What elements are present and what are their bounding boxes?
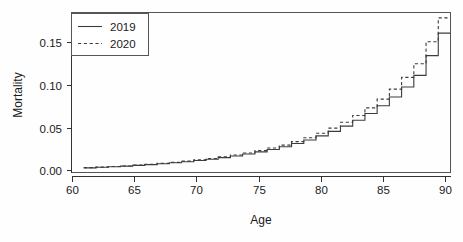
x-axis-title: Age: [250, 213, 272, 227]
x-axis-group: 60 65 70 75 80 85 90 Age: [66, 177, 452, 228]
x-tick-label-5: 85: [377, 184, 390, 196]
x-tick-label-4: 80: [315, 184, 328, 196]
legend-label-2020: 2020: [110, 38, 136, 50]
x-tick-marks: [73, 177, 446, 182]
x-tick-label-2: 70: [190, 184, 203, 196]
x-tick-label-3: 75: [253, 184, 266, 196]
y-tick-marks: [67, 43, 72, 171]
y-tick-label-3: 0.15: [40, 37, 62, 49]
chart-canvas: 0.15 0.10 0.05 0.00 Mortality 60 65 70 7…: [0, 0, 463, 242]
y-tick-label-0: 0.00: [40, 165, 62, 177]
legend[interactable]: 2019 2020: [72, 14, 149, 56]
x-tick-label-0: 60: [66, 184, 79, 196]
y-tick-label-2: 0.10: [40, 80, 62, 92]
y-tick-label-1: 0.05: [40, 123, 62, 135]
x-tick-label-6: 90: [439, 184, 452, 196]
y-axis-group: 0.15 0.10 0.05 0.00 Mortality: [11, 13, 72, 177]
x-tick-label-1: 65: [128, 184, 141, 196]
y-axis-title: Mortality: [11, 72, 25, 117]
mortality-by-age-chart: 0.15 0.10 0.05 0.00 Mortality 60 65 70 7…: [0, 0, 463, 242]
legend-label-2019: 2019: [110, 21, 136, 33]
